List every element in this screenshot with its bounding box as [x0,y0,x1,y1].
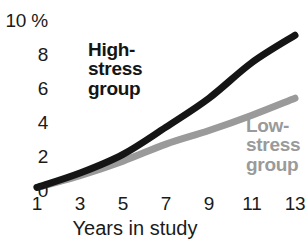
x-tick-label: 1 [17,194,57,213]
y-tick-label: 2 [0,147,48,166]
x-tick-label: 3 [60,194,100,213]
y-tick-label: 8 [0,45,48,64]
x-tick-label: 5 [103,194,143,213]
legend-low-stress-group: Low- stress group [246,116,308,174]
line-chart-figure: 10 %86420 135791113 Years in study High-… [0,0,308,245]
y-tick-label: 10 % [0,11,48,30]
legend-low-line-3: group [246,155,308,174]
legend-high-line-3: group [88,79,178,98]
y-tick-label: 4 [0,113,48,132]
x-axis-title: Years in study [0,218,270,238]
y-tick-label: 6 [0,79,48,98]
x-tick-label: 13 [275,194,308,213]
x-tick-label: 11 [232,194,272,213]
legend-high-stress-group: High- stress group [88,40,178,98]
x-tick-label: 7 [146,194,186,213]
legend-high-line-2: stress [88,59,178,78]
legend-low-line-2: stress [246,135,308,154]
x-tick-label: 9 [189,194,229,213]
legend-high-line-1: High- [88,40,178,59]
legend-low-line-1: Low- [246,116,308,135]
